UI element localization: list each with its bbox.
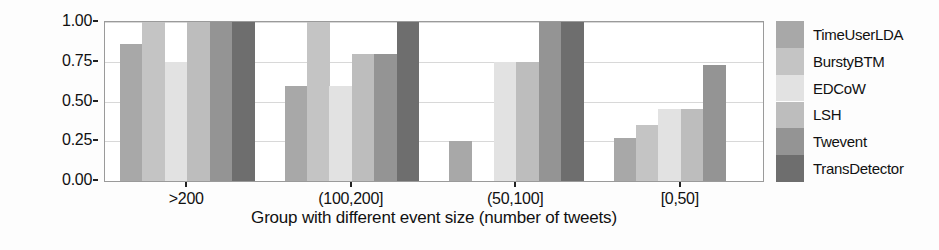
legend-swatch <box>776 128 804 155</box>
legend-swatch <box>776 21 804 48</box>
bar <box>539 22 562 181</box>
y-tick-mark <box>93 179 98 181</box>
legend-label: EDCoW <box>813 80 866 97</box>
legend-swatch <box>776 75 804 102</box>
bar <box>703 65 726 181</box>
x-axis-title: Group with different event size (number … <box>104 208 764 228</box>
bar <box>352 54 375 181</box>
bar <box>210 22 233 181</box>
legend-item: EDCoW <box>776 75 866 102</box>
bar <box>516 62 539 181</box>
y-tick-label: 1.00 <box>62 12 92 30</box>
legend: TimeUserLDABurstyBTMEDCoWLSHTweventTrans… <box>776 21 939 182</box>
bar <box>636 125 659 181</box>
y-tick-label: 0.25 <box>62 131 92 149</box>
bar <box>120 44 143 181</box>
legend-item: Twevent <box>776 128 867 155</box>
bar <box>285 86 308 181</box>
bar <box>397 22 420 181</box>
bar <box>165 62 188 181</box>
y-tick-mark <box>93 139 98 141</box>
x-tick-label: [0,50] <box>661 190 699 208</box>
y-tick-label: 0.75 <box>62 52 92 70</box>
bar <box>658 109 681 181</box>
y-tick-mark <box>93 20 98 22</box>
legend-swatch <box>776 155 804 182</box>
bar <box>449 141 472 181</box>
bar <box>374 54 397 181</box>
y-tick-label: 0.50 <box>62 92 92 110</box>
x-tick-label: (100,200] <box>318 190 383 208</box>
legend-label: TransDetector <box>813 160 904 177</box>
legend-item: BurstyBTM <box>776 48 884 75</box>
bar-chart-figure: Recall@Benchmark1 0.000.250.500.751.00 >… <box>0 0 939 250</box>
legend-label: BurstyBTM <box>813 53 884 70</box>
x-tick-mark <box>185 182 187 187</box>
legend-item: LSH <box>776 102 841 129</box>
bar <box>187 22 210 181</box>
legend-swatch <box>776 48 804 75</box>
legend-label: TimeUserLDA <box>813 26 903 43</box>
x-tick-mark <box>514 182 516 187</box>
legend-item: TimeUserLDA <box>776 21 903 48</box>
y-tick-mark <box>93 100 98 102</box>
legend-label: Twevent <box>813 133 867 150</box>
legend-item: TransDetector <box>776 155 904 182</box>
x-tick-mark <box>679 182 681 187</box>
bar <box>681 109 704 181</box>
bar <box>329 86 352 181</box>
bar <box>142 22 165 181</box>
x-tick-label: (50,100] <box>487 190 543 208</box>
bar <box>232 22 255 181</box>
legend-swatch <box>776 102 804 129</box>
x-tick-label: >200 <box>169 190 204 208</box>
bar <box>307 22 330 181</box>
plot-area <box>104 21 764 182</box>
y-tick-label: 0.00 <box>62 171 92 189</box>
x-tick-mark <box>350 182 352 187</box>
bar <box>494 62 517 181</box>
bar <box>561 22 584 181</box>
bar <box>614 138 637 181</box>
legend-label: LSH <box>813 106 841 123</box>
y-tick-mark <box>93 60 98 62</box>
y-axis-tick-labels: 0.000.250.500.751.00 <box>54 14 98 182</box>
